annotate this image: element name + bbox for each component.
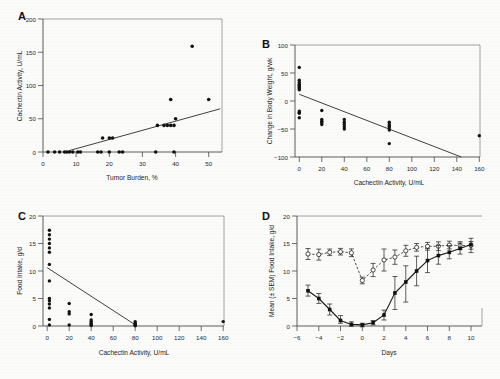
- svg-text:15: 15: [29, 240, 36, 247]
- panel-a-fitline: [69, 109, 220, 151]
- panel-d-xticks: −6 −4 −2 0 2 4 6 8 10: [293, 326, 475, 341]
- figure-container: A 200 150 100 50 0: [0, 0, 500, 379]
- svg-text:100: 100: [278, 42, 289, 49]
- panel-b-xlabel: Cachectin Activity, U/mL: [354, 179, 425, 187]
- panel-c-datapoints: [48, 229, 225, 328]
- svg-text:60: 60: [363, 165, 370, 172]
- svg-text:10: 10: [29, 268, 36, 275]
- svg-text:60: 60: [110, 334, 117, 341]
- panel-d-series-control-line: [308, 245, 471, 280]
- svg-text:50: 50: [205, 160, 212, 167]
- svg-text:140: 140: [452, 165, 463, 172]
- svg-text:5: 5: [33, 295, 37, 302]
- panel-a-xticks: 0 10 20 30 40 50: [41, 152, 212, 167]
- svg-text:40: 40: [88, 334, 95, 341]
- svg-text:−50: −50: [278, 126, 289, 133]
- panel-b-fitline: [299, 94, 461, 157]
- svg-text:6: 6: [426, 334, 430, 341]
- svg-text:10: 10: [73, 160, 80, 167]
- panel-c-yticks: 20 15 10 5 0: [29, 213, 43, 330]
- svg-text:0: 0: [41, 160, 45, 167]
- panel-a-yticks: 200 150 100 50 0: [26, 16, 43, 156]
- panel-b-letter: B: [262, 38, 270, 50]
- svg-text:120: 120: [174, 334, 185, 341]
- svg-text:−6: −6: [293, 334, 301, 341]
- svg-text:30: 30: [139, 160, 146, 167]
- panel-d-plot: 20 15 10 5 0 −6 −4 −2 0 2: [250, 196, 500, 379]
- svg-text:100: 100: [26, 82, 37, 89]
- svg-text:40: 40: [172, 160, 179, 167]
- panel-a-plot: 200 150 100 50 0 0 10 20 30: [0, 0, 250, 196]
- svg-text:150: 150: [26, 49, 37, 56]
- panel-c-fitline: [47, 268, 136, 326]
- svg-text:−2: −2: [337, 334, 345, 341]
- svg-text:40: 40: [341, 165, 348, 172]
- svg-text:−4: −4: [315, 334, 323, 341]
- svg-text:15: 15: [283, 240, 290, 247]
- panel-a-ylabel: Cachectin Activity, U/mL: [16, 50, 24, 121]
- svg-text:0: 0: [285, 98, 289, 105]
- panel-b-xticks: 0 20 40 60 80 100 120 140 160: [298, 157, 485, 172]
- svg-text:140: 140: [196, 334, 207, 341]
- svg-text:80: 80: [386, 165, 393, 172]
- svg-text:0: 0: [361, 334, 365, 341]
- panel-b: B 100 50 0 −50 −100 0 20: [250, 14, 500, 200]
- svg-text:20: 20: [283, 213, 290, 220]
- svg-text:200: 200: [26, 16, 37, 23]
- svg-text:160: 160: [218, 334, 229, 341]
- panel-d-xlabel: Days: [381, 349, 397, 357]
- panel-a-datapoints: [46, 45, 210, 154]
- panel-d-yticks: 20 15 10 5 0: [283, 213, 297, 330]
- panel-b-ylabel: Change in Body Weight, g/wk: [266, 57, 274, 144]
- panel-d-ylabel: Mean (± SEM) Food Intake, g/d: [268, 225, 276, 317]
- svg-text:50: 50: [29, 115, 36, 122]
- svg-text:10: 10: [283, 268, 290, 275]
- svg-text:4: 4: [404, 334, 408, 341]
- panel-b-datapoints: [298, 66, 481, 146]
- svg-text:10: 10: [468, 334, 475, 341]
- panel-c-plot: 20 15 10 5 0 0 20 40 60 80: [0, 196, 250, 379]
- svg-text:5: 5: [287, 295, 291, 302]
- svg-text:100: 100: [407, 165, 418, 172]
- panel-d-series-treated-line: [308, 245, 471, 325]
- panel-c-xlabel: Cachectin Activity, U/mL: [99, 349, 170, 357]
- svg-text:−100: −100: [274, 154, 288, 161]
- svg-text:0: 0: [33, 323, 37, 330]
- panel-d: D 20 15 10 5 0 −6 −4: [250, 196, 500, 379]
- panel-c-xticks: 0 20 40 60 80 100 120 140 160: [45, 326, 228, 341]
- svg-text:8: 8: [448, 334, 452, 341]
- svg-text:0: 0: [45, 334, 49, 341]
- panel-c: C 20 15 10 5 0 0 20: [0, 196, 250, 379]
- svg-text:20: 20: [106, 160, 113, 167]
- panel-a: A 200 150 100 50 0: [0, 0, 250, 196]
- svg-text:50: 50: [281, 70, 288, 77]
- svg-text:20: 20: [29, 213, 36, 220]
- svg-text:20: 20: [318, 165, 325, 172]
- panel-c-ylabel: Food Intake, g/d: [16, 247, 24, 295]
- panel-c-letter: C: [18, 210, 26, 222]
- svg-text:0: 0: [33, 149, 37, 156]
- svg-text:20: 20: [66, 334, 73, 341]
- svg-text:80: 80: [132, 334, 139, 341]
- svg-text:100: 100: [152, 334, 163, 341]
- panel-a-xlabel: Tumor Burden, %: [106, 174, 158, 181]
- panel-d-letter: D: [262, 210, 270, 222]
- svg-text:0: 0: [298, 165, 302, 172]
- panel-a-letter: A: [18, 10, 26, 22]
- svg-text:160: 160: [474, 165, 485, 172]
- svg-text:0: 0: [287, 323, 291, 330]
- panel-b-plot: 100 50 0 −50 −100 0 20 40 60 80: [250, 14, 500, 200]
- svg-text:120: 120: [429, 165, 440, 172]
- svg-text:2: 2: [382, 334, 386, 341]
- panel-b-yticks: 100 50 0 −50 −100: [274, 42, 295, 161]
